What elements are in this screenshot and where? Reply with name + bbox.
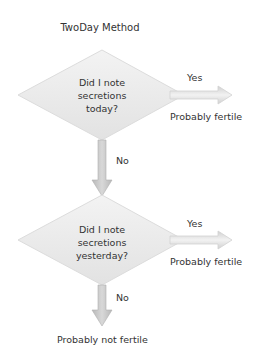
yes-label-1: Yes (187, 72, 202, 83)
diagram-title: TwoDay Method (0, 22, 200, 33)
no-arrow-1 (92, 140, 112, 196)
yes-arrow-2 (170, 231, 232, 249)
outcome-probably-fertile-2: Probably fertile (170, 256, 242, 267)
question-line: today? (62, 102, 142, 115)
question-line: yesterday? (62, 249, 142, 262)
no-label-2: No (116, 292, 129, 303)
question-line: Did I note (62, 223, 142, 236)
question-line: secretions (62, 89, 142, 102)
question-today: Did I note secretions today? (62, 76, 142, 115)
outcome-probably-fertile-1: Probably fertile (170, 111, 242, 122)
question-yesterday: Did I note secretions yesterday? (62, 223, 142, 262)
no-label-1: No (116, 155, 129, 166)
no-arrow-2 (92, 285, 112, 326)
yes-label-2: Yes (187, 218, 202, 229)
question-line: Did I note (62, 76, 142, 89)
outcome-probably-not-fertile: Probably not fertile (57, 334, 148, 345)
question-line: secretions (62, 236, 142, 249)
flowchart-graphics (0, 0, 255, 361)
yes-arrow-1 (170, 86, 232, 104)
